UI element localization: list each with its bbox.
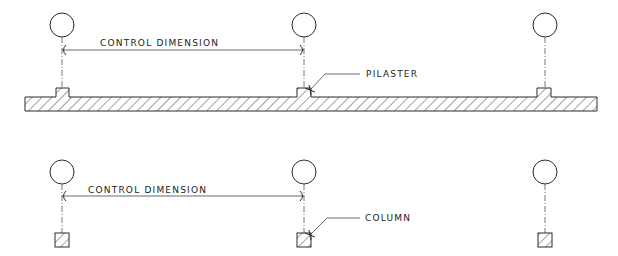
callout-leader: [310, 218, 360, 235]
control-dimension-diagram: CONTROL DIMENSION PILASTER CONTROL DIMEN…: [0, 0, 618, 256]
column-section: [297, 233, 311, 247]
column-callout-label: COLUMN: [365, 213, 411, 223]
wall-section: [25, 88, 597, 111]
grid-bubble-icon: [50, 160, 74, 184]
grid-bubble-icon: [533, 160, 557, 184]
callout-leader: [310, 74, 360, 90]
pilaster-callout-label: PILASTER: [366, 69, 418, 79]
column-plan-panel: CONTROL DIMENSION COLUMN: [50, 160, 557, 247]
grid-bubble-icon: [533, 13, 557, 37]
dimension-label: CONTROL DIMENSION: [100, 38, 219, 48]
grid-bubble-icon: [292, 13, 316, 37]
column-section: [538, 233, 552, 247]
grid-bubble-icon: [50, 13, 74, 37]
column-section: [55, 233, 69, 247]
grid-bubble-icon: [292, 160, 316, 184]
pilaster-plan-panel: CONTROL DIMENSION PILASTER: [25, 13, 597, 111]
dimension-label: CONTROL DIMENSION: [88, 185, 207, 195]
